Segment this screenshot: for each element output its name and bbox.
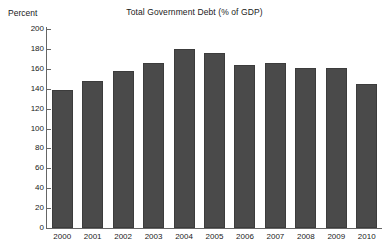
y-tick-label: 200 bbox=[31, 25, 44, 33]
y-tick-label: 100 bbox=[31, 125, 44, 133]
y-tick-label: 0 bbox=[40, 224, 44, 232]
y-tick-label: 60 bbox=[35, 164, 44, 172]
bars-layer bbox=[47, 0, 382, 247]
bar-2008 bbox=[295, 68, 316, 228]
y-tick-label: 40 bbox=[35, 184, 44, 192]
bar-2005 bbox=[204, 53, 225, 228]
bar-2003 bbox=[143, 63, 164, 228]
bar-2007 bbox=[265, 63, 286, 228]
bar-2000 bbox=[52, 90, 73, 228]
bar-2006 bbox=[234, 65, 255, 228]
y-tick-label: 20 bbox=[35, 204, 44, 212]
bar-2010 bbox=[356, 84, 377, 228]
y-tick-label: 160 bbox=[31, 65, 44, 73]
y-tick-label: 180 bbox=[31, 45, 44, 53]
y-axis-unit-label: Percent bbox=[8, 8, 37, 18]
bar-2001 bbox=[82, 81, 103, 228]
bar-2004 bbox=[174, 49, 195, 228]
y-tick-label: 120 bbox=[31, 105, 44, 113]
bar-2009 bbox=[326, 68, 347, 228]
x-tick-label-2010: 2010 bbox=[347, 232, 387, 241]
chart-container: Total Government Debt (% of GDP) Percent… bbox=[0, 0, 389, 247]
y-tick-label: 140 bbox=[31, 85, 44, 93]
bar-2002 bbox=[113, 71, 134, 228]
y-tick-label: 80 bbox=[35, 144, 44, 152]
